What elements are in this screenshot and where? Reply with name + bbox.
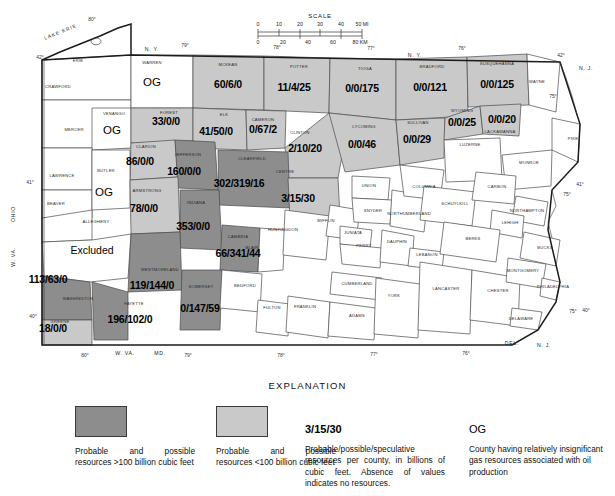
county-name-adams: ADAMS <box>349 313 365 318</box>
county-name-delaware: DELAWARE <box>509 316 534 321</box>
graticule-label-2: 41° <box>26 179 34 185</box>
county-name-centre: CENTRE <box>276 169 294 174</box>
scale-km-tick-4: 80 KM <box>353 39 368 45</box>
county-bedford-shape <box>220 270 262 312</box>
county-name-philadelphia: PHILADELPHIA <box>537 284 569 289</box>
graticule-label-17: 75° <box>563 191 571 197</box>
county-name-union: UNION <box>362 183 376 188</box>
scale-mi-tick-2: 20 <box>297 21 303 27</box>
graticule-label-7: 80° <box>81 352 89 358</box>
state-label-md-160: MD. <box>154 350 166 356</box>
county-name-monroe: MONROE <box>519 160 539 165</box>
legend-text-values: Probable/possible/speculative resources … <box>305 444 445 490</box>
county-name-northumberland: NORTHUMBERLAND <box>387 211 431 216</box>
county-name-dauphin: DAUPHIN <box>387 239 407 244</box>
county-value-allegheny: Excluded <box>70 244 113 256</box>
graticule-label-6: 80° <box>88 16 96 22</box>
county-name-york: YORK <box>388 293 401 298</box>
county-value-susquehanna: 0/0/125 <box>480 78 514 90</box>
legend-swatch-light <box>216 406 268 437</box>
graticule-label-13: 77° <box>370 351 378 357</box>
county-fayette-shape <box>92 282 128 340</box>
state-label-n-j-544: N. J. <box>537 342 551 348</box>
state-label-w-va-125: W. VA. <box>115 350 135 356</box>
legend-item-og: OG County having relatively insignifican… <box>469 406 609 478</box>
graticule-label-16: 75° <box>549 93 557 99</box>
county-name-juniata: JUNIATA <box>344 230 362 235</box>
county-value-venango: OG <box>103 124 121 136</box>
county-name-snyder: SNYDER <box>364 208 383 213</box>
county-value-centre: 3/15/30 <box>281 192 315 204</box>
scale-mi-tick-4: 40 <box>338 21 344 27</box>
county-value-elk: 41/50/0 <box>199 125 233 137</box>
state-label-del-512: DEL. <box>505 340 519 346</box>
county-name-lackawanna: LACKAWANNA <box>485 129 516 134</box>
county-york-shape <box>374 278 420 338</box>
state-label-n-y-152: N. Y. <box>145 46 159 52</box>
county-name-berks: BERKS <box>465 236 480 241</box>
graticule-label-4: 40° <box>29 313 37 319</box>
state-label-n-j-586: N. J. <box>579 65 593 71</box>
graticule-label-18: 75° <box>569 308 577 314</box>
county-name-clinton: CLINTON <box>290 130 310 135</box>
county-value-mckean: 60/6/0 <box>214 78 242 90</box>
county-name-clarion: CLARION <box>136 144 156 149</box>
county-name-chester: CHESTER <box>487 288 508 293</box>
legend-text-og: County having relatively insignificant g… <box>469 444 609 478</box>
county-name-armstrong: ARMSTRONG <box>133 188 162 193</box>
county-name-westmoreland: WESTMORELAND <box>141 267 179 272</box>
legend-item-values: 3/15/30 Probable/possible/speculative re… <box>305 406 445 490</box>
scale-miles-ticks: 01020304050 MI <box>257 21 369 27</box>
scale-km-tick-1: 20 <box>280 39 286 45</box>
county-warren-shape <box>131 55 193 108</box>
county-name-washington: WASHINGTON <box>63 296 93 301</box>
county-value-wyoming: 0/0/25 <box>448 116 476 128</box>
scale-mi-tick-5: 50 MI <box>356 21 369 27</box>
county-name-lawrence: LAWRENCE <box>49 173 74 178</box>
county-name-mifflin: MIFFLIN <box>317 218 335 223</box>
graticule-label-12: 77° <box>367 45 375 51</box>
county-value-potter: 11/4/25 <box>277 81 310 93</box>
county-name-beaver: BEAVER <box>47 201 65 206</box>
county-name-erie: ERIE <box>73 58 84 63</box>
graticule-label-15: 76° <box>462 350 470 356</box>
lake-erie-label: LAKE ERIE <box>43 22 78 41</box>
county-butler-shape <box>92 150 130 210</box>
legend-swatch-dark <box>75 406 127 437</box>
county-name-franklin: FRANKLIN <box>294 304 316 309</box>
county-value-washington: 113/63/0 <box>29 273 68 285</box>
county-name-mckean: MCKEAN <box>218 62 237 67</box>
county-name-warren: WARREN <box>142 60 162 65</box>
county-schuylkill-shape <box>420 186 476 226</box>
county-value-bradford: 0/0/121 <box>413 81 447 93</box>
scale-mi-tick-0: 0 <box>257 21 260 27</box>
county-value-clearfield: 302/319/16 <box>214 177 265 189</box>
county-name-bedford: BEDFORD <box>234 283 256 288</box>
scale-bar: SCALE 01020304050 MI 020406080 KM <box>257 13 369 45</box>
county-name-clearfield: CLEARFIELD <box>238 156 266 161</box>
county-lancaster-shape <box>418 262 472 334</box>
county-value-tioga: 0/0/175 <box>345 82 379 94</box>
county-name-somerset: SOMERSET <box>189 284 214 289</box>
graticule-label-1: 42° <box>557 52 565 58</box>
graticule-label-3: 41° <box>576 181 584 187</box>
pennsylvania-gas-resources-map: LAKE ERIE <box>0 0 615 375</box>
graticule-label-14: 76° <box>458 45 466 51</box>
county-name-venango: VENANGO <box>103 111 125 116</box>
county-name-pike: PIKE <box>568 136 578 141</box>
county-name-tioga: TIOGA <box>358 66 372 71</box>
county-name-luzerne: LUZERNE <box>460 142 481 147</box>
county-value-greene: 18/0/0 <box>39 322 67 334</box>
county-value-indiana: 353/0/0 <box>176 220 210 232</box>
county-name-allegheny: ALLEGHENY <box>83 219 110 224</box>
county-value-cameron: 0/67/2 <box>249 123 277 135</box>
county-name-potter: POTTER <box>290 64 308 69</box>
county-name-cameron: CAMERON <box>252 117 275 122</box>
county-name-cumberland: CUMBERLAND <box>341 281 372 286</box>
county-name-mercer: MERCER <box>64 127 83 132</box>
county-union-shape <box>352 176 390 200</box>
county-name-lycoming: LYCOMING <box>352 124 376 129</box>
county-erie-shape <box>42 55 131 100</box>
legend-symbol-values: 3/15/30 <box>305 423 342 435</box>
graticule-label-5: 40° <box>582 307 590 313</box>
